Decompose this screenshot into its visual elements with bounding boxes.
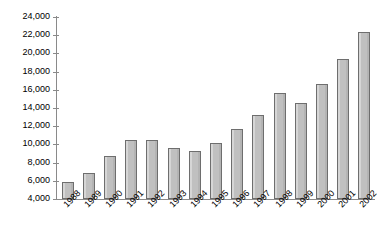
bar-chart-figure: 24,00022,00020,00018,00016,00014,00012,0… xyxy=(0,0,382,245)
y-axis-tick xyxy=(53,199,59,200)
x-axis-tick-label: 1991 xyxy=(125,189,146,210)
y-axis-tick xyxy=(53,108,59,109)
x-axis-tick-label: 2000 xyxy=(316,189,337,210)
x-axis-tick-label: 1993 xyxy=(168,189,189,210)
y-axis-tick xyxy=(53,90,59,91)
y-axis-tick xyxy=(53,72,59,73)
y-axis-tick xyxy=(53,35,59,36)
x-axis-tick-label: 1990 xyxy=(104,189,125,210)
x-axis-tick-label: 1999 xyxy=(295,189,316,210)
x-axis-tick-label: 1997 xyxy=(252,189,273,210)
x-axis-tick-label: 1994 xyxy=(189,189,210,210)
y-axis-tick xyxy=(53,53,59,54)
x-axis-tick-label: 2002 xyxy=(358,189,379,210)
x-axis-tick-label: 1988 xyxy=(62,189,83,210)
x-axis-tick-label: 1996 xyxy=(231,189,252,210)
x-axis-tick-label: 2001 xyxy=(337,189,358,210)
x-axis-tick-label: 1989 xyxy=(83,189,104,210)
x-axis-labels: 1988198919901991199219931994199519961997… xyxy=(0,0,382,245)
y-axis-tick xyxy=(53,126,59,127)
y-axis-tick xyxy=(53,163,59,164)
y-axis-tick xyxy=(53,144,59,145)
x-axis-tick-label: 1995 xyxy=(210,189,231,210)
y-axis-tick xyxy=(53,17,59,18)
x-axis-tick-label: 1992 xyxy=(146,189,167,210)
x-axis-tick-label: 1998 xyxy=(274,189,295,210)
y-axis-tick xyxy=(53,181,59,182)
